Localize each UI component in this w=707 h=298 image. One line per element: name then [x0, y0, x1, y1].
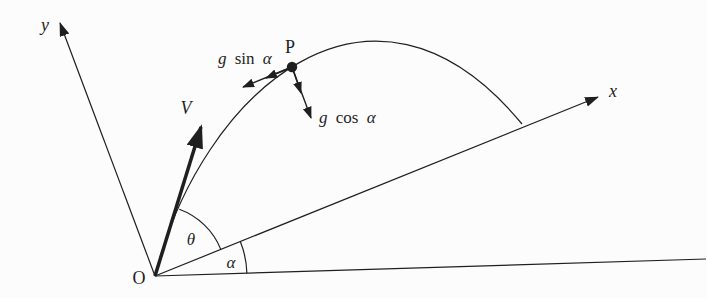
projectile-on-incline-diagram: y x V P O θ α g sin α g cos α — [0, 0, 707, 298]
point-p-label: P — [285, 37, 295, 57]
g-sin-alpha-label: g sin α — [218, 49, 273, 68]
origin-label: O — [133, 268, 146, 288]
figure-background — [0, 0, 707, 298]
diagram-page: y x V P O θ α g sin α g cos α — [0, 0, 707, 298]
g-cos-alpha-label: g cos α — [319, 108, 377, 127]
g-symbol: g — [319, 108, 328, 127]
cos-function: cos — [336, 108, 359, 127]
y-axis-label: y — [39, 15, 49, 35]
x-axis-label: x — [608, 81, 617, 101]
g-symbol: g — [218, 49, 227, 68]
alpha-angle-label: α — [227, 253, 237, 272]
theta-angle-label: θ — [187, 230, 195, 249]
alpha-symbol: α — [263, 49, 273, 68]
sin-function: sin — [235, 49, 255, 68]
alpha-symbol: α — [367, 108, 377, 127]
